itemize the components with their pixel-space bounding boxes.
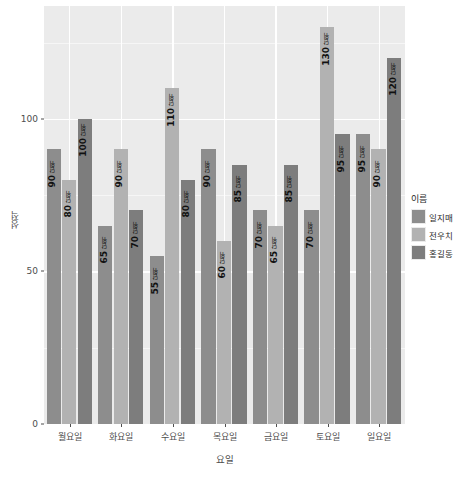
bar <box>387 58 401 424</box>
legend-item[interactable]: 홍길동 <box>411 244 459 261</box>
legend-label: 전우치 <box>429 229 453 241</box>
x-tick-label: 토요일 <box>316 430 340 443</box>
bar-unit-text: 단위 <box>255 222 262 236</box>
x-tick-mark <box>225 424 226 427</box>
legend-key <box>411 227 426 242</box>
bar-unit-text: 단위 <box>337 146 344 160</box>
bar-value-label: 120 단위 <box>389 63 398 96</box>
bar-value-label: 65 단위 <box>270 237 279 263</box>
bar-value-text: 55 <box>150 282 160 295</box>
bar-value-text: 70 <box>305 236 315 249</box>
bar-value-label: 100 단위 <box>79 124 88 157</box>
x-tick-label: 금요일 <box>264 430 288 443</box>
bar-value-text: 60 <box>217 266 227 279</box>
bar-unit-text: 단위 <box>115 161 122 175</box>
legend-swatch <box>412 246 425 259</box>
legend-item[interactable]: 전우치 <box>411 226 459 243</box>
bar-unit-text: 단위 <box>285 176 292 190</box>
bar-value-label: 70 단위 <box>131 222 140 248</box>
legend-label: 일지매 <box>429 211 453 223</box>
bar <box>47 149 61 424</box>
bar-value-text: 70 <box>130 236 140 249</box>
bar-value-label: 65 단위 <box>100 237 109 263</box>
bar <box>371 149 385 424</box>
legend: 이름 일지매전우치홍길동 <box>411 192 459 262</box>
bar-unit-text: 단위 <box>358 146 365 160</box>
legend-key <box>411 245 426 260</box>
bar-unit-text: 단위 <box>79 124 86 138</box>
bar-value-label: 110 단위 <box>167 94 176 127</box>
bar <box>201 149 215 424</box>
bar-unit-text: 단위 <box>389 63 396 77</box>
bar <box>232 165 246 424</box>
bar-value-text: 95 <box>336 160 346 173</box>
bar-value-text: 95 <box>357 160 367 173</box>
bar-value-text: 90 <box>372 175 382 188</box>
bar <box>284 165 298 424</box>
bar-value-label: 90 단위 <box>48 161 57 187</box>
bar-value-text: 85 <box>284 190 294 203</box>
bar-value-label: 130 단위 <box>322 33 331 66</box>
bar <box>165 88 179 424</box>
legend-label: 홍길동 <box>429 247 453 259</box>
bar-value-text: 90 <box>114 175 124 188</box>
bar-unit-text: 단위 <box>48 161 55 175</box>
bar-value-text: 110 <box>166 108 176 127</box>
x-tick-mark <box>328 424 329 427</box>
x-axis-title: 요일 <box>44 452 405 466</box>
x-tick-label: 목요일 <box>213 430 237 443</box>
bar-unit-text: 단위 <box>218 252 225 266</box>
bar-value-text: 90 <box>202 175 212 188</box>
bar-unit-text: 단위 <box>64 191 71 205</box>
bar-value-text: 100 <box>78 138 88 157</box>
bar-value-text: 80 <box>181 205 191 218</box>
bar-unit-text: 단위 <box>100 237 107 251</box>
bar-unit-text: 단위 <box>182 191 189 205</box>
legend-swatch <box>412 228 425 241</box>
legend-swatch <box>412 210 425 223</box>
x-tick-label: 화요일 <box>109 430 133 443</box>
bar-unit-text: 단위 <box>131 222 138 236</box>
bar-chart: 성적 050100 90 단위80 단위100 단위65 단위90 단위70 단… <box>0 0 459 480</box>
y-tick-label: 100 <box>8 114 38 124</box>
bar-value-text: 65 <box>99 251 109 264</box>
bar-unit-text: 단위 <box>306 222 313 236</box>
bar-value-text: 65 <box>269 251 279 264</box>
y-tick-label: 50 <box>8 266 38 276</box>
x-tick-mark <box>173 424 174 427</box>
bar <box>114 149 128 424</box>
bar-unit-text: 단위 <box>322 33 329 47</box>
bar-value-text: 80 <box>63 205 73 218</box>
x-tick-label: 수요일 <box>161 430 185 443</box>
bar-unit-text: 단위 <box>373 161 380 175</box>
bar-value-label: 55 단위 <box>151 268 160 294</box>
bar-value-label: 70 단위 <box>306 222 315 248</box>
bar-value-label: 80 단위 <box>64 191 73 217</box>
bar-unit-text: 단위 <box>234 176 241 190</box>
x-tick-label: 일요일 <box>367 430 391 443</box>
bar-unit-text: 단위 <box>167 94 174 108</box>
legend-item[interactable]: 일지매 <box>411 208 459 225</box>
legend-key <box>411 209 426 224</box>
x-tick-mark <box>379 424 380 427</box>
bar-value-label: 70 단위 <box>255 222 264 248</box>
bar-value-label: 85 단위 <box>234 176 243 202</box>
bar-value-label: 95 단위 <box>337 146 346 172</box>
bar-unit-text: 단위 <box>203 161 210 175</box>
legend-entries: 일지매전우치홍길동 <box>411 208 459 261</box>
bar-value-text: 120 <box>388 77 398 96</box>
bar-value-text: 85 <box>233 190 243 203</box>
bar-value-text: 130 <box>321 47 331 66</box>
bar-value-label: 80 단위 <box>182 191 191 217</box>
bar <box>78 119 92 424</box>
y-axis-ticks: 050100 <box>8 0 44 480</box>
x-tick-mark <box>121 424 122 427</box>
bar <box>356 134 370 424</box>
x-tick-mark <box>276 424 277 427</box>
bar-value-label: 85 단위 <box>285 176 294 202</box>
legend-title: 이름 <box>411 192 459 205</box>
x-tick-mark <box>70 424 71 427</box>
bar-value-label: 95 단위 <box>358 146 367 172</box>
bar-value-text: 70 <box>254 236 264 249</box>
bar-unit-text: 단위 <box>151 268 158 282</box>
